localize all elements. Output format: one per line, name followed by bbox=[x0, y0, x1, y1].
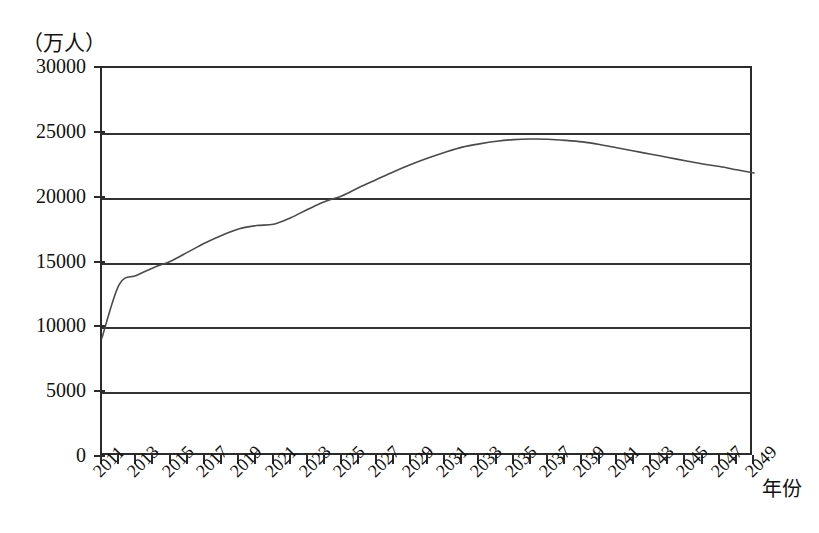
y-axis-tick-label: 20000 bbox=[36, 184, 86, 207]
plot-area bbox=[100, 66, 752, 455]
y-axis-tick-label: 5000 bbox=[46, 379, 86, 402]
y-axis-tick-label: 15000 bbox=[36, 249, 86, 272]
y-axis-tick-mark bbox=[94, 390, 105, 392]
x-axis-title: 年份 bbox=[762, 473, 802, 502]
y-axis-tick-label: 25000 bbox=[36, 119, 86, 142]
y-axis-tick-mark bbox=[94, 66, 105, 68]
y-axis-tick-label: 10000 bbox=[36, 314, 86, 337]
y-axis-tick-label: 30000 bbox=[36, 55, 86, 78]
chart-container: （万人） 050001000015000200002500030000 2011… bbox=[0, 0, 819, 533]
y-axis-tick-mark bbox=[94, 196, 105, 198]
y-axis-tick-mark bbox=[94, 261, 105, 263]
y-axis-tick-mark bbox=[94, 325, 105, 327]
series-layer bbox=[102, 68, 754, 457]
y-axis-tick-mark bbox=[94, 131, 105, 133]
y-axis-unit-label: （万人） bbox=[22, 26, 106, 56]
y-axis-tick-label: 0 bbox=[76, 444, 86, 467]
population-line bbox=[102, 139, 754, 338]
